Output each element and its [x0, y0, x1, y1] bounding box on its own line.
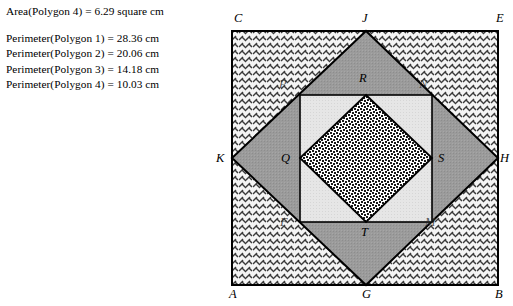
vertex-label-G: G: [362, 288, 371, 301]
vertex-label-R: R: [359, 72, 367, 85]
figure-page: Area(Polygon 4) = 6.29 square cm Perimet…: [0, 0, 513, 306]
vertex-label-B: B: [495, 288, 503, 301]
nested-polygon-figure: C J E P R N K Q S H F T M A G B: [0, 0, 513, 306]
vertex-label-K: K: [216, 152, 224, 165]
vertex-label-J: J: [362, 12, 368, 25]
vertex-label-C: C: [234, 12, 242, 25]
vertex-label-F: F: [280, 216, 288, 229]
vertex-label-Q: Q: [281, 152, 290, 165]
vertex-label-A: A: [229, 288, 237, 301]
vertex-label-M: M: [425, 216, 435, 229]
vertex-label-T: T: [361, 226, 368, 239]
vertex-label-N: N: [419, 78, 427, 91]
vertex-label-P: P: [279, 78, 287, 91]
vertex-label-H: H: [500, 152, 509, 165]
vertex-label-S: S: [438, 152, 444, 165]
vertex-label-E: E: [496, 12, 504, 25]
figure-canvas: [0, 0, 513, 306]
